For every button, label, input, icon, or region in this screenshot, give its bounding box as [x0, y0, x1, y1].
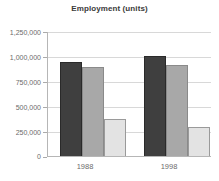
bar-1998-series-1: [144, 56, 166, 156]
bar-1998-series-3: [188, 127, 210, 156]
y-axis-label-1000000: 1,000,000: [0, 54, 41, 61]
y-axis-label-1250000: 1,250,000: [0, 29, 41, 36]
bar-1988-series-3: [104, 119, 126, 156]
y-axis-label-250000: 250,000: [0, 129, 41, 136]
bar-1988-series-1: [60, 62, 82, 156]
gridline-1000000: [48, 57, 212, 58]
plot-right-clip: [211, 32, 219, 158]
y-axis-label-0: 0: [0, 153, 41, 160]
bar-chart: Employment (units) 1,250,000 1,000,000 7…: [0, 0, 219, 181]
bar-1998-series-2: [166, 65, 188, 156]
x-axis-label-1988: 1988: [65, 162, 105, 171]
y-axis-label-500000: 500,000: [0, 104, 41, 111]
y-axis-label-750000: 750,000: [0, 79, 41, 86]
bar-1988-series-2: [82, 67, 104, 156]
y-axis-tick-0: [43, 157, 47, 158]
chart-title: Employment (units): [0, 4, 219, 13]
x-axis-label-1998: 1998: [149, 162, 189, 171]
gridline-1250000: [48, 32, 212, 33]
plot-area: [47, 32, 211, 157]
